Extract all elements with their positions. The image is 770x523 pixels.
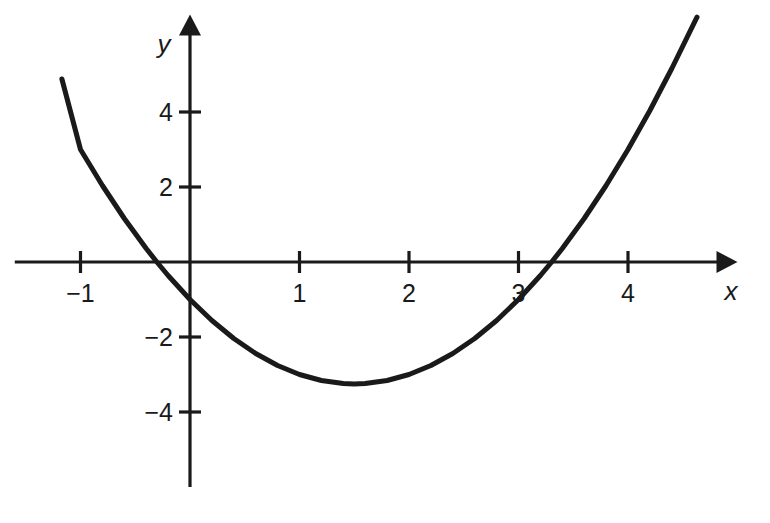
- y-tick-label: −4: [144, 400, 173, 425]
- x-tick-label: 4: [621, 281, 635, 306]
- parabola-plot: [0, 0, 770, 523]
- y-tick-label: 4: [159, 100, 173, 125]
- x-tick-label: 1: [293, 281, 307, 306]
- x-tick-label: 3: [512, 281, 526, 306]
- figure-canvas: −1123442−2−4 y x: [0, 0, 770, 523]
- axes-group: [15, 15, 738, 488]
- y-tick-label: 2: [159, 175, 173, 200]
- y-tick-label: −2: [144, 325, 173, 350]
- y-axis-label: y: [158, 31, 171, 57]
- x-tick-label: 2: [402, 281, 416, 306]
- x-tick-label: −1: [66, 281, 95, 306]
- x-axis-label: x: [725, 278, 738, 304]
